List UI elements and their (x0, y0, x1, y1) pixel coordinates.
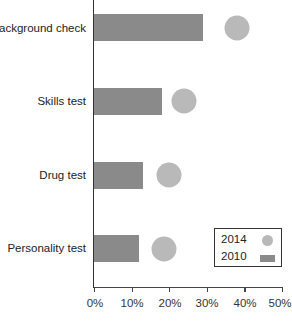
x-tick-label: 20% (158, 297, 181, 309)
dot-2014-personality-test (151, 237, 176, 262)
bar-2010-skills-test (94, 88, 162, 115)
legend-label-2014: 2014 (221, 233, 247, 245)
bar-2010-personality-test (94, 235, 139, 262)
x-tick (207, 287, 208, 292)
bar-chart: Background check Skills test Drug test P… (0, 0, 292, 321)
dot-2014-skills-test (172, 89, 197, 114)
x-tick (94, 287, 95, 292)
x-tick-label: 0% (87, 297, 104, 309)
dot-2014-background-check (224, 16, 249, 41)
legend-bar-icon (260, 255, 275, 262)
category-label: Skills test (37, 95, 86, 107)
legend-circle-icon (262, 235, 273, 246)
legend-label-2010: 2010 (221, 250, 247, 262)
x-tick-label: 30% (195, 297, 218, 309)
x-tick (169, 287, 170, 292)
x-tick-label: 50% (268, 297, 291, 309)
dot-2014-drug-test (157, 163, 182, 188)
x-tick-label: 40% (233, 297, 256, 309)
x-tick-label: 10% (120, 297, 143, 309)
category-label: Background check (0, 22, 86, 34)
category-label: Drug test (39, 169, 86, 181)
x-tick (282, 287, 283, 292)
bar-2010-background-check (94, 14, 203, 41)
bar-2010-drug-test (94, 162, 143, 189)
legend: 2014 2010 (214, 228, 282, 267)
x-tick (132, 287, 133, 292)
x-tick (244, 287, 245, 292)
category-label: Personality test (7, 242, 86, 254)
x-axis-line (94, 287, 283, 288)
